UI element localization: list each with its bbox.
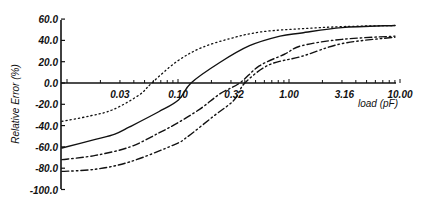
y-tick-label: -80.0 <box>35 163 58 174</box>
y-tick-label: 60.0 <box>39 14 59 25</box>
y-tick-label: -40.0 <box>35 121 58 132</box>
y-tick-labels: 60.040.020.00.0-20.0-40.0-60.0-80.0-100.… <box>30 14 59 195</box>
x-axis <box>61 79 400 83</box>
relative-error-chart: 60.040.020.00.0-20.0-40.0-60.0-80.0-100.… <box>0 0 423 207</box>
y-tick-label: -100.0 <box>30 185 59 196</box>
x-tick-label: 1.00 <box>279 89 299 100</box>
y-tick-label: 0.0 <box>44 78 58 89</box>
y-tick-label: -60.0 <box>35 142 58 153</box>
x-tick-label: 0.32 <box>224 89 244 100</box>
y-axis <box>61 19 65 189</box>
y-tick-label: 20.0 <box>38 57 59 68</box>
x-tick-label: 0.03 <box>110 89 130 100</box>
series-line-solid <box>62 25 395 147</box>
x-tick-label: 3.16 <box>335 89 355 100</box>
y-tick-label: -20.0 <box>35 99 58 110</box>
x-axis-title: load (pF) <box>358 98 398 109</box>
series-line-dotted <box>62 25 395 121</box>
y-axis-title: Relative Error (%) <box>10 64 21 143</box>
y-tick-label: 40.0 <box>38 35 59 46</box>
